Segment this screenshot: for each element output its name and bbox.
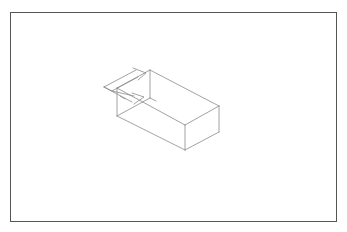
diagram-canvas [0,0,347,232]
isometric-box-diagram [0,0,347,232]
box-front-face [117,98,219,150]
box-top-edges [117,70,219,125]
upper-arrow-icon [104,68,146,91]
lower-arrow-icon [104,87,144,104]
